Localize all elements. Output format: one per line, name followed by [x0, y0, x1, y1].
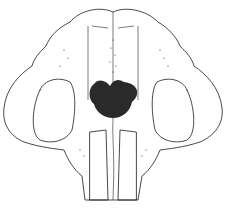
left-orbit	[33, 79, 75, 142]
skull-drawing	[0, 0, 227, 209]
right-orbit	[152, 79, 194, 142]
nasal-aperture	[90, 80, 138, 118]
skull-illustration	[0, 0, 227, 209]
